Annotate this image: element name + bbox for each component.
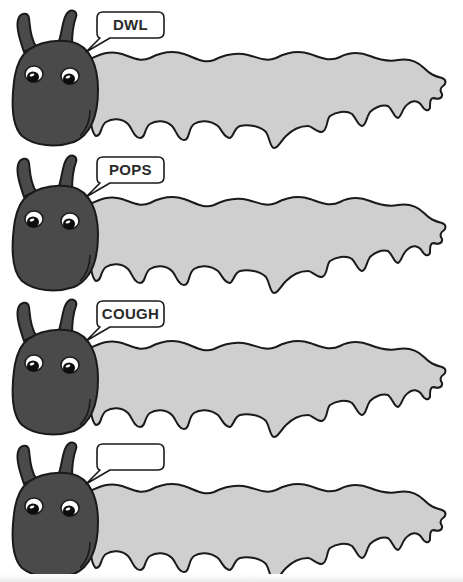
bubble-text: POPS xyxy=(97,157,164,183)
caterpillar-illustration xyxy=(0,432,463,578)
caterpillar-illustration xyxy=(0,289,463,435)
page-bottom-edge xyxy=(0,574,463,582)
bubble-text: DWL xyxy=(97,12,164,38)
worksheet: DWL POPS COUGH xyxy=(0,0,463,582)
caterpillar-illustration xyxy=(0,0,463,146)
bubble-text-empty[interactable] xyxy=(97,444,164,470)
caterpillar-3: COUGH xyxy=(0,289,463,435)
caterpillar-4 xyxy=(0,432,463,578)
bubble-text: COUGH xyxy=(97,301,164,327)
caterpillar-2: POPS xyxy=(0,145,463,291)
caterpillar-1: DWL xyxy=(0,0,463,146)
caterpillar-illustration xyxy=(0,145,463,291)
